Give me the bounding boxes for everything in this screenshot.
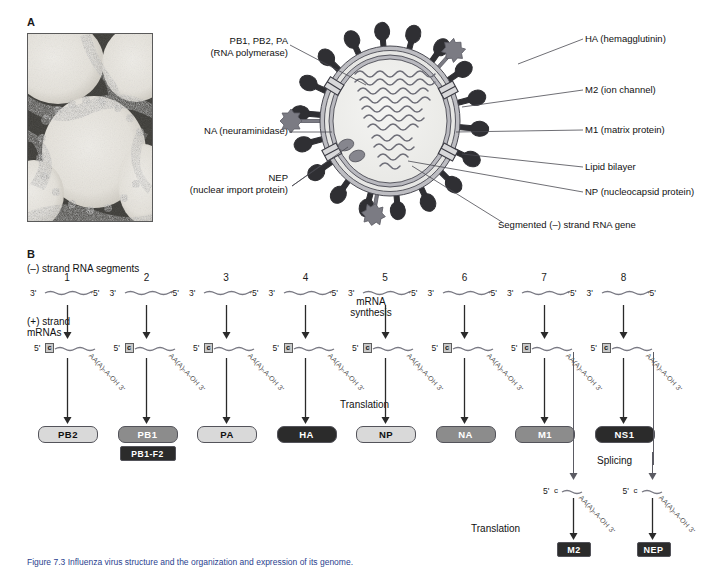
protein-box-NA[interactable]: NA [436,426,496,443]
virion-diagram [150,14,716,239]
mrna-7-five-prime: 5' [511,343,517,353]
splice-branch-M2 [572,352,575,465]
mrna-6-five-prime: 5' [432,343,438,353]
mrna-6-polya-tail: AA(A)ₙA-OH 3' [485,352,524,393]
translation-arrow-5 [380,358,391,424]
segment-number-8: 8 [610,272,638,283]
mrna-7-polya-tail: AA(A)ₙA-OH 3' [564,352,603,393]
segment-5-three-prime: 3' [348,288,354,298]
segment-5-five-prime: 5' [411,288,417,298]
mrna-2-polya-tail: AA(A)ₙA-OH 3' [167,352,206,393]
spliced-translation-arrow-NEP [647,498,658,540]
splicing-arrow-M2 [568,452,579,480]
segment-number-4: 4 [292,272,320,283]
segment-6-three-prime: 3' [428,288,434,298]
segment-1-five-prime: 5' [93,288,99,298]
translation-arrow-1 [62,358,73,424]
spliced-NEP-cap: c [634,486,638,495]
mrna-synthesis-label: mRNA synthesis [340,296,402,318]
figure-caption: Figure 7.3 Influenza virus structure and… [27,557,353,567]
segment-5-minus-strand [363,290,409,296]
micrograph-image [28,34,152,221]
translation-arrow-8 [618,358,629,424]
spliced-NEP-polya-tail: AA(A)ₙA-OH 3' [657,494,696,535]
segment-2-five-prime: 5' [173,288,179,298]
mrna-synthesis-arrow-7 [539,305,550,339]
mrna-5-cap: c [363,343,372,353]
mrna-5-polya-tail: AA(A)ₙA-OH 3' [405,352,444,393]
segment-2-minus-strand [125,290,171,296]
segment-7-minus-strand [522,290,568,296]
protein-box-NP[interactable]: NP [356,426,416,443]
splicing-label: Splicing [597,455,632,467]
mrna-5-strand [373,346,413,352]
mrna-3-five-prime: 5' [193,343,199,353]
segment-number-2: 2 [133,272,161,283]
segment-4-minus-strand [284,290,330,296]
segment-number-6: 6 [451,272,479,283]
spliced-NEP-strand [642,489,662,495]
mrna-synthesis-arrow-1 [62,305,73,339]
spliced-M2-polya-tail: AA(A)ₙA-OH 3' [577,494,616,535]
segment-1-minus-strand [45,290,91,296]
protein-box-PB2[interactable]: PB2 [38,426,98,443]
translation-label-2: Translation [471,523,520,535]
mrna-6-strand [453,346,493,352]
mrna-synthesis-arrow-5 [380,305,391,339]
mrna-7-strand [532,346,572,352]
lipid-bilayer [320,46,460,196]
protein-box-PB1[interactable]: PB1 [118,426,178,443]
segment-1-three-prime: 3' [30,288,36,298]
protein-box-HA[interactable]: HA [277,426,337,443]
segment-number-1: 1 [53,272,81,283]
translation-arrow-4 [300,358,311,424]
splicing-arrow-NEP [647,452,658,480]
mrna-8-cap: c [602,343,611,353]
segment-6-five-prime: 5' [491,288,497,298]
translation-arrow-7 [539,358,550,424]
segment-number-5: 5 [371,272,399,283]
mrna-2-five-prime: 5' [114,343,120,353]
mrna-synthesis-line2: synthesis [340,307,402,318]
protein-box-NEP[interactable]: NEP [637,542,671,557]
mrna-4-strand [294,346,334,352]
panel-b-letter: B [27,248,35,260]
mrna-8-five-prime: 5' [591,343,597,353]
segment-4-three-prime: 3' [269,288,275,298]
protein-box-M1[interactable]: M1 [515,426,575,443]
mrna-8-strand [612,346,652,352]
mrna-2-cap: c [125,343,134,353]
mrna-1-cap: c [45,343,54,353]
segment-number-7: 7 [530,272,558,283]
mrna-4-five-prime: 5' [273,343,279,353]
segment-3-three-prime: 3' [189,288,195,298]
mrna-2-strand [135,346,175,352]
translation-arrow-2 [141,358,152,424]
mrna-5-five-prime: 5' [352,343,358,353]
spliced-M2-strand [562,489,582,495]
protein-box-PB1-F2[interactable]: PB1-F2 [120,446,176,461]
mrna-synthesis-arrow-3 [221,305,232,339]
segment-3-five-prime: 5' [252,288,258,298]
segment-8-three-prime: 3' [587,288,593,298]
spliced-M2-cap: c [554,486,558,495]
panel-a-letter: A [27,16,35,28]
mrna-1-five-prime: 5' [34,343,40,353]
segment-3-minus-strand [204,290,250,296]
translation-arrow-3 [221,358,232,424]
protein-box-NS1[interactable]: NS1 [595,426,655,443]
spliced-NEP-five-prime: 5' [623,486,629,496]
mrna-8-polya-tail: AA(A)ₙA-OH 3' [644,352,683,393]
mrna-7-cap: c [522,343,531,353]
segment-6-minus-strand [443,290,489,296]
mrna-synthesis-arrow-6 [459,305,470,339]
mrna-3-polya-tail: AA(A)ₙA-OH 3' [246,352,285,393]
minus-strand-label: (–) strand RNA segments [27,263,139,275]
protein-box-PA[interactable]: PA [197,426,257,443]
segment-7-five-prime: 5' [570,288,576,298]
segment-4-five-prime: 5' [332,288,338,298]
protein-box-M2[interactable]: M2 [557,542,591,557]
translation-arrow-6 [459,358,470,424]
segment-2-three-prime: 3' [110,288,116,298]
mrna-synthesis-arrow-4 [300,305,311,339]
